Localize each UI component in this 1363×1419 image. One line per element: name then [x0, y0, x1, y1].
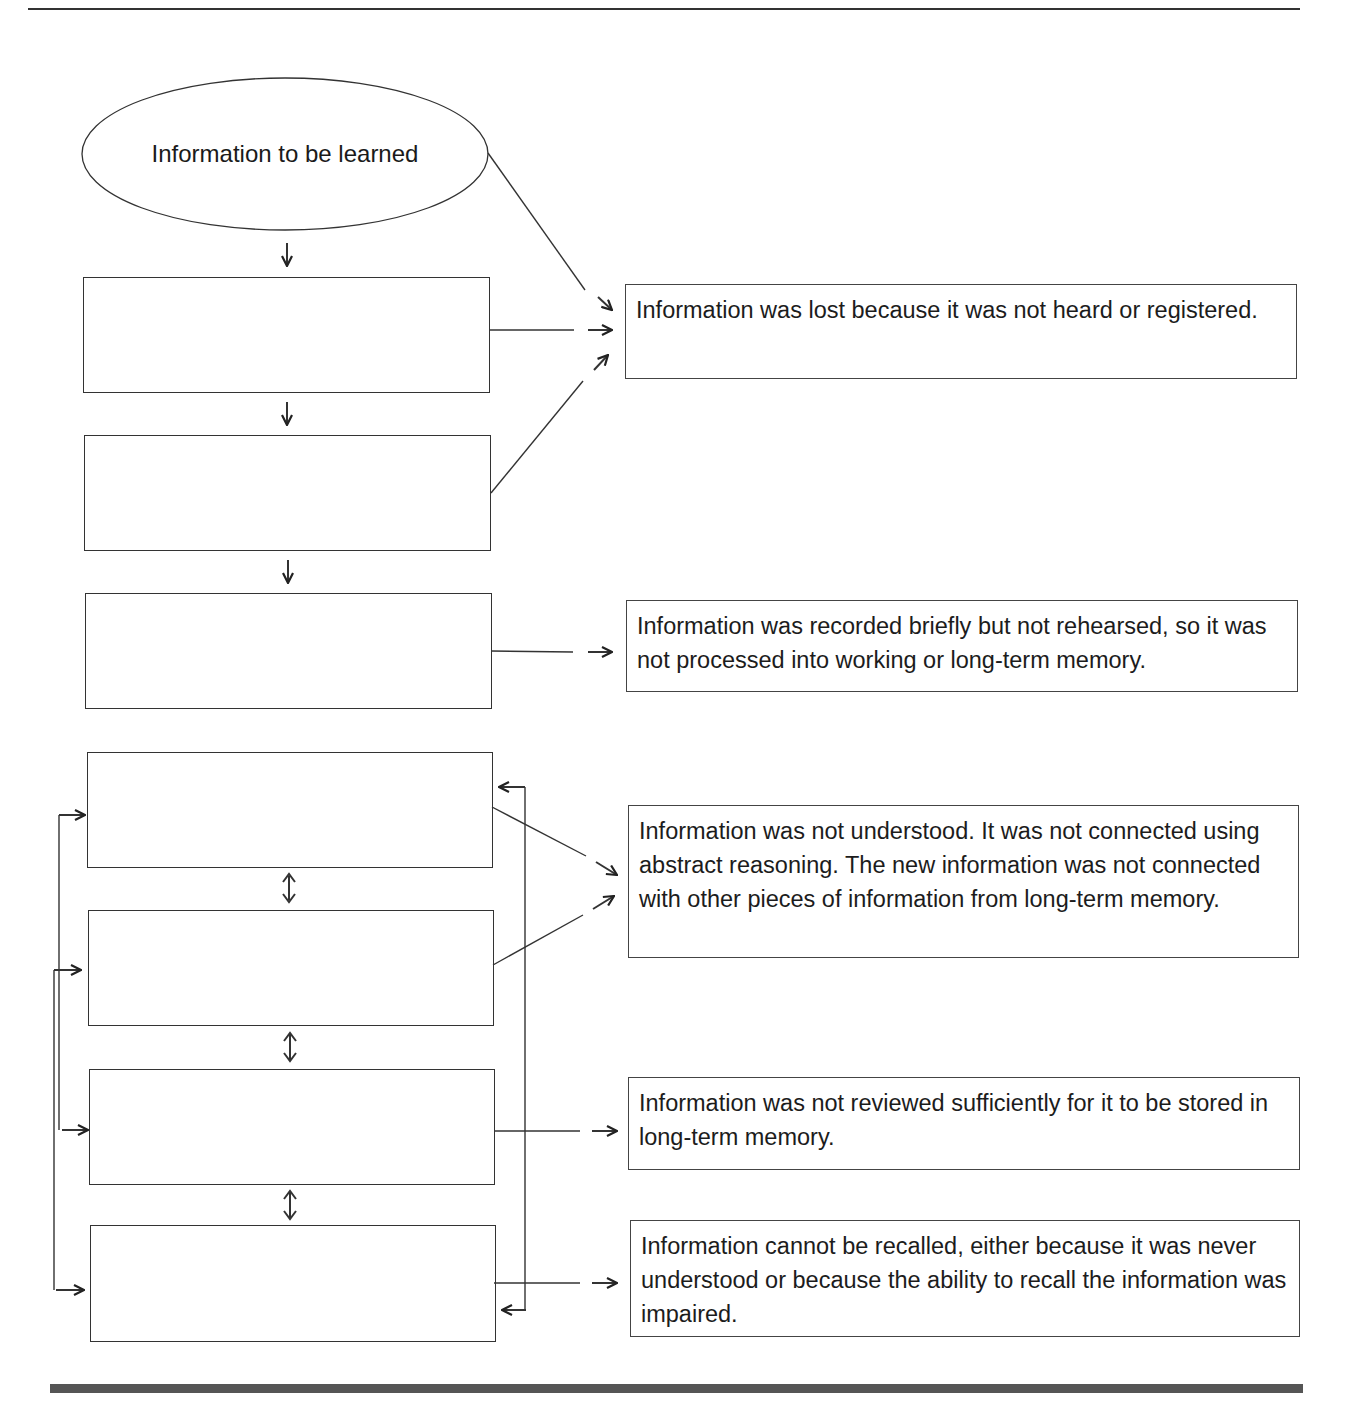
outcome-box-not-rehearsed: Information was recorded briefly but not… — [626, 600, 1298, 692]
arrow-start-to-a — [598, 297, 612, 310]
stage-box-4 — [87, 752, 493, 868]
arrow-2-to-a — [594, 355, 608, 370]
outcome-box-cannot-recall: Information cannot be recalled, either b… — [630, 1220, 1300, 1337]
stage-box-5 — [88, 910, 494, 1026]
outcome-box-not-understood: Information was not understood. It was n… — [628, 805, 1299, 958]
stage-box-7 — [90, 1225, 496, 1342]
stage-box-6 — [89, 1069, 495, 1185]
footer-rule — [50, 1384, 1303, 1393]
bidirectional-arrow-4-5 — [283, 874, 295, 902]
arrow-5-to-c — [593, 896, 614, 909]
bidirectional-arrow-6-7 — [284, 1191, 296, 1219]
bidirectional-arrow-5-6 — [284, 1033, 296, 1061]
outcome-box-not-reviewed: Information was not reviewed sufficientl… — [628, 1077, 1300, 1170]
stage-box-1 — [83, 277, 490, 393]
arrow-4-to-c — [596, 862, 617, 875]
stage-box-3 — [85, 593, 492, 709]
outcome-box-not-registered: Information was lost because it was not … — [625, 284, 1297, 379]
start-node-label: Information to be learned — [82, 78, 488, 230]
stage-box-2 — [84, 435, 491, 551]
